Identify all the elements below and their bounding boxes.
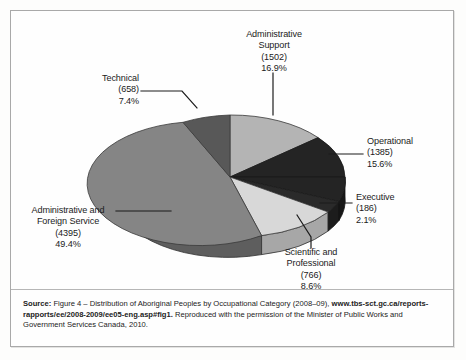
label-operational-line1: Operational bbox=[367, 136, 453, 147]
label-executive: Executive (186) 2.1% bbox=[356, 192, 446, 226]
label-administrative-support-line2: Support bbox=[211, 40, 337, 51]
source-text-a: Figure 4 – Distribution of Aboriginal Pe… bbox=[51, 299, 331, 308]
label-administrative-support-percent: 16.9% bbox=[211, 63, 337, 74]
source-divider bbox=[11, 289, 453, 290]
label-executive-percent: 2.1% bbox=[356, 215, 446, 226]
source-prefix: Source: bbox=[23, 299, 51, 308]
label-technical-value: (658) bbox=[41, 84, 139, 95]
label-technical-line1: Technical bbox=[41, 73, 139, 84]
label-administrative-support-value: (1502) bbox=[211, 52, 337, 63]
source-note: Source: Figure 4 – Distribution of Abori… bbox=[23, 299, 441, 331]
label-scientific-line1: Scientific and bbox=[259, 247, 363, 258]
label-scientific-and-professional: Scientific and Professional (766) 8.6% bbox=[259, 247, 363, 292]
label-administrative-and-foreign-service: Administrative and Foreign Service (4395… bbox=[19, 205, 117, 250]
label-scientific-line2: Professional bbox=[259, 258, 363, 269]
label-afs-value: (4395) bbox=[19, 228, 117, 239]
label-afs-line2: Foreign Service bbox=[19, 216, 117, 227]
label-administrative-support-line1: Administrative bbox=[211, 29, 337, 40]
label-executive-line1: Executive bbox=[356, 192, 446, 203]
label-administrative-support: Administrative Support (1502) 16.9% bbox=[211, 29, 337, 74]
label-technical: Technical (658) 7.4% bbox=[41, 73, 139, 107]
leader-line-technical bbox=[141, 91, 197, 108]
label-afs-percent: 49.4% bbox=[19, 239, 117, 250]
label-executive-value: (186) bbox=[356, 203, 446, 214]
pie-chart: Administrative Support (1502) 16.9% Tech… bbox=[11, 11, 453, 289]
label-afs-line1: Administrative and bbox=[19, 205, 117, 216]
label-technical-percent: 7.4% bbox=[41, 96, 139, 107]
figure-frame: Administrative Support (1502) 16.9% Tech… bbox=[10, 10, 454, 347]
label-scientific-value: (766) bbox=[259, 270, 363, 281]
label-operational-value: (1385) bbox=[367, 147, 453, 158]
label-scientific-percent: 8.6% bbox=[259, 281, 363, 292]
label-operational-percent: 15.6% bbox=[367, 159, 453, 170]
label-operational: Operational (1385) 15.6% bbox=[367, 136, 453, 170]
